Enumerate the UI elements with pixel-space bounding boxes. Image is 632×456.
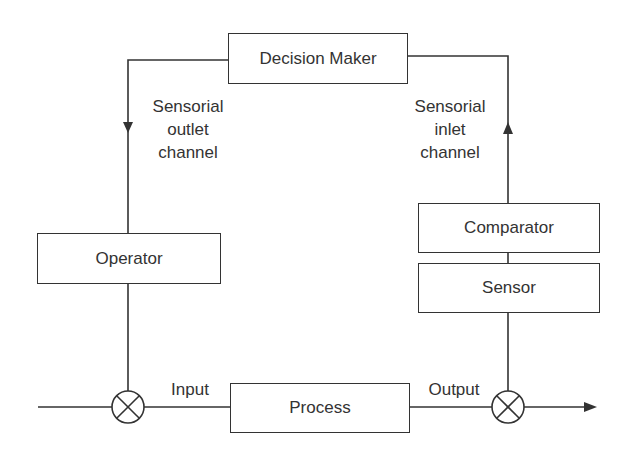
outlet-line-2: outlet — [138, 118, 238, 141]
arrow-up-icon — [503, 122, 513, 134]
decision-maker-label: Decision Maker — [259, 49, 376, 69]
summing-junction-output — [492, 391, 524, 423]
inlet-line-3: channel — [400, 141, 500, 164]
input-label: Input — [160, 378, 220, 401]
outlet-line-1: Sensorial — [138, 95, 238, 118]
arrow-right-icon — [584, 402, 597, 412]
sensor-label: Sensor — [482, 278, 536, 298]
comparator-label: Comparator — [464, 218, 554, 238]
process-block: Process — [230, 383, 410, 433]
operator-label: Operator — [95, 249, 162, 269]
inlet-line-2: inlet — [400, 118, 500, 141]
outlet-line-3: channel — [138, 141, 238, 164]
operator-block: Operator — [37, 233, 221, 284]
process-label: Process — [289, 398, 350, 418]
inlet-channel-label: Sensorial inlet channel — [400, 95, 500, 164]
decision-maker-block: Decision Maker — [228, 33, 408, 84]
summing-junction-input — [112, 391, 144, 423]
inlet-line-1: Sensorial — [400, 95, 500, 118]
arrow-down-icon — [123, 122, 133, 133]
sensor-block: Sensor — [418, 263, 600, 313]
outlet-channel-label: Sensorial outlet channel — [138, 95, 238, 164]
comparator-block: Comparator — [418, 203, 600, 253]
output-label: Output — [418, 378, 490, 401]
